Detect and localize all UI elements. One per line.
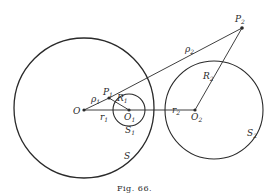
figure-caption: Fig. 66. [117, 184, 152, 193]
figure-66-diagram: O O1 O2 P1 P2 S S1 S2 ρ1 ρ2 r1 r2 R1 R2 … [0, 0, 278, 196]
label-O2: O2 [191, 112, 202, 123]
point-P2 [240, 26, 244, 30]
label-O: O [73, 106, 81, 116]
label-R2: R2 [202, 71, 214, 82]
label-r1: r1 [100, 112, 108, 123]
label-rho1: ρ1 [90, 94, 100, 105]
label-rho2: ρ2 [184, 44, 194, 55]
circle-S [14, 38, 154, 178]
label-r2: r2 [172, 105, 180, 116]
point-O [82, 108, 85, 111]
label-S2: S2 [247, 128, 257, 139]
label-P2: P2 [234, 14, 245, 25]
label-S: S [124, 151, 130, 161]
label-P1: P1 [102, 87, 113, 98]
label-S1: S1 [125, 125, 135, 136]
label-O1: O1 [124, 112, 135, 123]
